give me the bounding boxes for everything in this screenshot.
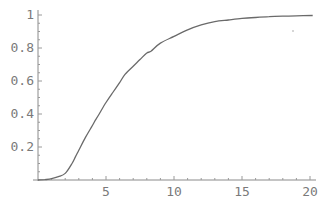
- line-chart: 0.20.40.60.81 5101520: [0, 0, 325, 198]
- stray-mark: [292, 30, 294, 32]
- y-tick-label: 0.6: [11, 73, 34, 88]
- y-tick-label: 0.4: [11, 106, 35, 121]
- x-tick-label: 20: [302, 184, 318, 198]
- x-axis: 5101520: [33, 176, 318, 198]
- y-tick-label: 1: [26, 7, 34, 22]
- x-tick-label: 10: [166, 184, 182, 198]
- x-tick-label: 5: [102, 184, 110, 198]
- y-tick-label: 0.8: [11, 40, 34, 55]
- y-ticks: 0.20.40.60.81: [11, 7, 42, 172]
- x-ticks: 5101520: [52, 176, 318, 198]
- y-tick-label: 0.2: [11, 139, 34, 154]
- data-curve: [38, 16, 313, 181]
- y-axis: 0.20.40.60.81: [11, 7, 42, 181]
- x-tick-label: 15: [234, 184, 250, 198]
